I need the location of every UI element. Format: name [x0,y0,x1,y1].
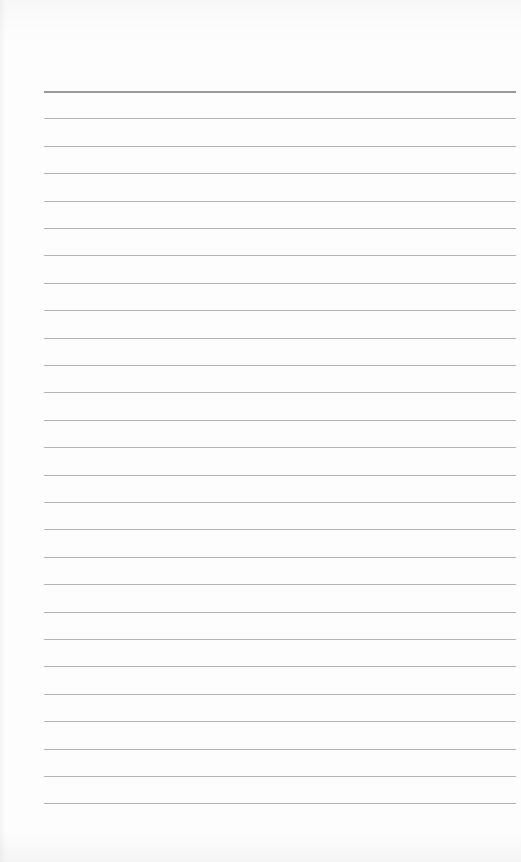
rule-line [44,365,516,366]
rule-line [44,283,516,284]
rule-line [44,392,516,393]
rule-line [44,146,516,147]
scan-bleed-left [0,0,6,862]
rule-line [44,201,516,202]
rule-line [44,447,516,448]
header-rule-line [44,91,516,93]
ruled-page [0,0,521,862]
rule-line [44,475,516,476]
rule-line [44,584,516,585]
rule-line [44,612,516,613]
rule-line [44,639,516,640]
rule-line [44,776,516,777]
rule-line [44,557,516,558]
rule-line [44,529,516,530]
rule-line [44,310,516,311]
rule-line [44,749,516,750]
rule-line [44,803,516,804]
rule-line [44,118,516,119]
scan-bleed-bottom [0,832,521,862]
rule-line [44,666,516,667]
rule-line [44,338,516,339]
rule-line [44,228,516,229]
scan-bleed-top [0,0,521,40]
rule-line [44,255,516,256]
rule-line [44,694,516,695]
rule-line [44,173,516,174]
rule-line [44,721,516,722]
rule-line [44,502,516,503]
rule-line [44,420,516,421]
